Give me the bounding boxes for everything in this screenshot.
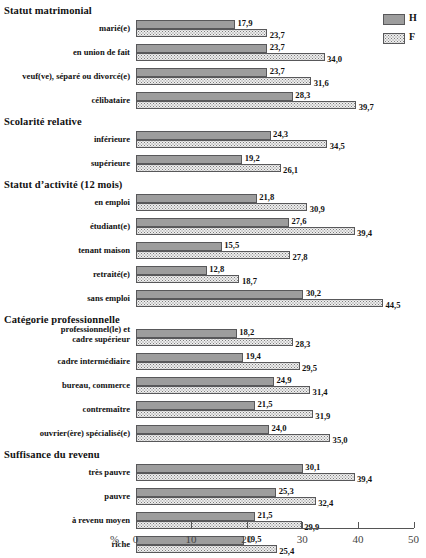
value-h-0-0: 17,9: [238, 18, 253, 28]
value-f-3-3: 31,9: [315, 411, 330, 421]
value-h-3-1: 19,4: [246, 351, 261, 361]
value-f-0-3: 39,7: [359, 102, 374, 112]
bar-f-1-0: [136, 140, 328, 148]
x-axis-tick-40: [358, 522, 359, 528]
bar-f-4-0: [136, 473, 355, 481]
bar-h-0-1: [136, 44, 268, 53]
x-axis-tick-30: [302, 522, 303, 528]
value-f-0-1: 34,0: [327, 54, 342, 64]
category-label-1-1: supérieure: [2, 159, 130, 169]
x-axis-tick-label-30: 30: [287, 533, 317, 545]
x-axis-tick-label-50: 50: [399, 533, 426, 545]
category-label-2-2: tenant maison: [2, 246, 130, 256]
bar-h-0-2: [136, 68, 268, 77]
bar-h-3-3: [136, 401, 256, 410]
group-title-1: Scolarité relative: [4, 116, 82, 127]
category-label-4-2: à revenu moyen: [2, 516, 130, 526]
bar-h-3-1: [136, 353, 244, 362]
bar-f-0-0: [136, 29, 268, 37]
bar-h-2-2: [136, 242, 222, 251]
x-axis-tick-label-10: 10: [176, 533, 206, 545]
value-f-2-1: 39,4: [357, 228, 372, 238]
value-h-3-0: 18,2: [239, 327, 254, 337]
category-label-2-4: sans emploi: [2, 294, 130, 304]
value-f-2-0: 30,9: [310, 204, 325, 214]
category-label-0-2: veuf(ve), séparé ou divorcé(e): [2, 72, 130, 82]
category-label-3-4: ouvrier(ère) spécialisé(e): [2, 429, 130, 439]
x-axis-tick-50: [414, 522, 415, 528]
legend-swatch-f: [383, 33, 405, 44]
bar-h-0-0: [136, 20, 236, 29]
legend-swatch-h: [383, 14, 405, 25]
x-axis-tick-label-20: 20: [232, 533, 262, 545]
value-h-4-0: 30,1: [305, 462, 320, 472]
value-f-0-0: 23,7: [270, 30, 285, 40]
group-title-0: Statut matrimonial: [4, 5, 92, 16]
x-axis-tick-10: [191, 522, 192, 528]
bar-f-0-2: [136, 77, 312, 85]
bar-h-1-0: [136, 131, 271, 140]
bar-f-2-0: [136, 203, 308, 211]
x-axis-tick-label-40: 40: [343, 533, 373, 545]
x-axis-tick-label-0: 0: [121, 533, 151, 545]
value-h-0-2: 23,7: [270, 66, 285, 76]
legend-label-h: H: [409, 12, 417, 23]
category-label-3-3: contremaître: [2, 405, 130, 415]
bar-f-2-2: [136, 251, 291, 259]
axis-unit-label: %: [110, 533, 119, 545]
bar-f-4-1: [136, 497, 316, 505]
value-f-4-0: 39,4: [357, 474, 372, 484]
category-label-2-0: en emploi: [2, 198, 130, 208]
category-label-3-2: bureau, commerce: [2, 381, 130, 391]
category-label-4-0: très pauvre: [2, 468, 130, 478]
bar-f-0-3: [136, 101, 357, 109]
bar-h-2-3: [136, 266, 207, 275]
value-f-1-0: 34,5: [330, 141, 345, 151]
category-label-3-1: cadre intermédiaire: [2, 357, 130, 367]
bar-h-2-4: [136, 290, 304, 299]
bar-f-2-3: [136, 275, 240, 283]
category-label-1-0: inférieure: [2, 135, 130, 145]
value-f-2-4: 44,5: [385, 300, 400, 310]
bar-f-3-1: [136, 362, 300, 370]
category-label-0-1: en union de fait: [2, 48, 130, 58]
value-f-3-0: 28,3: [295, 339, 310, 349]
bar-f-2-1: [136, 227, 355, 235]
grouped-bar-chart: HFStatut matrimonialmarié(e)17,923,7en u…: [0, 0, 426, 558]
x-axis-tick-0: [136, 522, 137, 528]
value-h-2-0: 21,8: [259, 192, 274, 202]
group-title-2: Statut d’activité (12 mois): [4, 179, 122, 190]
bar-h-4-1: [136, 488, 277, 497]
category-label-4-1: pauvre: [2, 492, 130, 502]
category-label-3-0: professionnel(le) et cadre supérieur: [2, 325, 130, 344]
bar-f-4-3: [136, 545, 277, 553]
value-f-3-4: 35,0: [333, 435, 348, 445]
group-title-4: Suffisance du revenu: [4, 449, 100, 460]
category-label-2-3: retraité(e): [2, 270, 130, 280]
value-h-4-2: 21,5: [258, 510, 273, 520]
bar-f-3-2: [136, 386, 311, 394]
x-axis-line: [136, 528, 414, 529]
bar-h-1-1: [136, 155, 243, 164]
legend-label-f: F: [409, 31, 415, 42]
value-f-0-2: 31,6: [314, 78, 329, 88]
value-h-3-3: 21,5: [258, 399, 273, 409]
value-f-4-2: 29,9: [304, 522, 319, 532]
value-h-4-1: 25,3: [279, 486, 294, 496]
value-h-0-1: 23,7: [270, 42, 285, 52]
value-f-2-3: 18,7: [242, 276, 257, 286]
value-h-2-2: 15,5: [224, 240, 239, 250]
value-h-2-3: 12,8: [209, 264, 224, 274]
value-f-3-1: 29,5: [302, 363, 317, 373]
value-f-3-2: 31,4: [313, 387, 328, 397]
value-h-1-1: 19,2: [245, 153, 260, 163]
bar-h-0-3: [136, 92, 293, 101]
bar-f-0-1: [136, 53, 325, 61]
value-f-1-1: 26,1: [283, 165, 298, 175]
bar-h-3-2: [136, 377, 274, 386]
bar-f-1-1: [136, 164, 281, 172]
value-f-4-1: 32,4: [318, 498, 333, 508]
value-f-2-2: 27,8: [293, 252, 308, 262]
value-h-1-0: 24,3: [273, 129, 288, 139]
category-label-0-0: marié(e): [2, 24, 130, 34]
